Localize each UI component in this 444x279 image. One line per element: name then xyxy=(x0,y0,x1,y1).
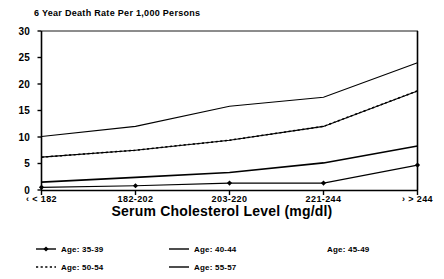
chart-title: 6 Year Death Rate Per 1,000 Persons xyxy=(34,8,200,18)
y-axis-tick-label-20: 20 xyxy=(6,79,30,90)
legend-markers xyxy=(0,234,444,279)
y-axis-tick-label-10: 10 xyxy=(6,132,30,143)
legend-label-age-35-39: Age: 35-39 xyxy=(61,245,103,254)
y-axis-tick-label-15: 15 xyxy=(6,105,30,116)
legend-label-age-40-44: Age: 40-44 xyxy=(194,245,236,254)
y-axis-tick-label-25: 25 xyxy=(6,52,30,63)
legend-label-age-50-54: Age: 50-54 xyxy=(61,263,103,272)
x-axis-title: Serum Cholesterol Level (mg/dl) xyxy=(0,203,444,219)
chart-container: 6 Year Death Rate Per 1,000 Persons 30 2… xyxy=(0,0,444,279)
y-axis-tick-label-30: 30 xyxy=(6,26,30,37)
series-markers xyxy=(39,162,420,189)
y-axis-ticks xyxy=(38,31,42,190)
legend-label-age-55-57: Age: 55-57 xyxy=(194,263,236,272)
y-axis-tick-label-5: 5 xyxy=(6,158,30,169)
legend-label-age-45-49: Age: 45-49 xyxy=(327,245,369,254)
series-lines xyxy=(42,63,418,188)
